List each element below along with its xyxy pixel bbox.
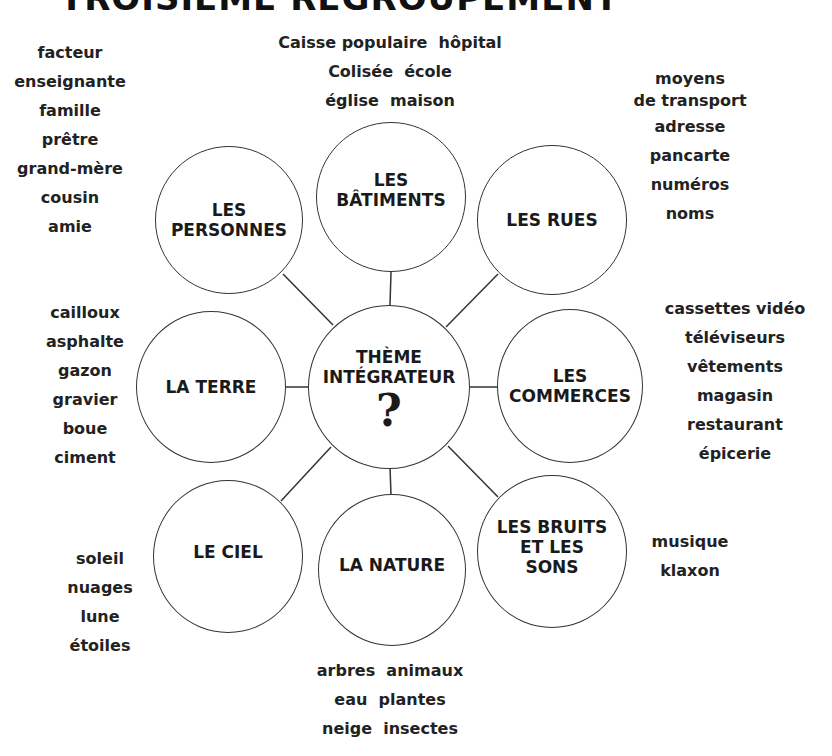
circle-ciel: LE CIEL: [153, 480, 303, 633]
circle-terre: LA TERRE: [136, 311, 286, 463]
list-item: vêtements: [640, 352, 830, 381]
list-item: étoiles: [40, 631, 160, 660]
list-nature: arbres animaux eau plantes neige insecte…: [290, 656, 490, 743]
list-item: lune: [40, 602, 160, 631]
list-item: amie: [0, 212, 140, 241]
label-bruits: LES BRUITS ET LES SONS: [497, 517, 608, 577]
list-item: gazon: [15, 356, 155, 385]
list-item: cassettes vidéo: [640, 294, 830, 323]
link-ciel: [281, 447, 331, 501]
label-line: PERSONNES: [171, 220, 287, 240]
label-line: LA TERRE: [166, 377, 257, 397]
label-line: LES: [509, 366, 631, 386]
list-batiments: Caisse populaire hôpital Colisée école é…: [250, 28, 530, 115]
list-item: arbres animaux: [290, 656, 490, 685]
list-item: soleil: [40, 544, 160, 573]
list-item: noms: [620, 199, 760, 228]
circle-bruits: LES BRUITS ET LES SONS: [477, 475, 627, 628]
label-nature: LA NATURE: [339, 555, 445, 575]
list-item: facteur: [0, 38, 140, 67]
label-line: SONS: [497, 557, 608, 577]
list-item: ciment: [15, 443, 155, 472]
list-item: prêtre: [0, 125, 140, 154]
list-item: asphalte: [15, 327, 155, 356]
label-ciel: LE CIEL: [193, 542, 263, 562]
list-personnes: facteur enseignante famille prêtre grand…: [0, 38, 140, 241]
list-item: moyens: [620, 68, 760, 90]
circle-rues: LES RUES: [477, 145, 627, 295]
label-terre: LA TERRE: [166, 377, 257, 397]
list-item: gravier: [15, 385, 155, 414]
link-nature: [390, 467, 391, 495]
list-item: cailloux: [15, 298, 155, 327]
list-item: enseignante: [0, 67, 140, 96]
label-line: LES RUES: [506, 210, 597, 230]
link-rues: [446, 274, 498, 327]
label-commerces: LES COMMERCES: [509, 366, 631, 406]
list-commerces: cassettes vidéo téléviseurs vêtements ma…: [640, 294, 830, 468]
list-terre: cailloux asphalte gazon gravier boue cim…: [15, 298, 155, 472]
list-item: magasin: [640, 381, 830, 410]
list-item: de transport: [620, 90, 760, 112]
label-line: LES BRUITS: [497, 517, 608, 537]
label-line: LA NATURE: [339, 555, 445, 575]
list-item: épicerie: [640, 439, 830, 468]
link-personnes: [283, 274, 333, 325]
label-line: BÂTIMENTS: [336, 190, 445, 210]
label-rues: LES RUES: [506, 210, 597, 230]
list-item: neige insectes: [290, 714, 490, 743]
list-ciel: soleil nuages lune étoiles: [40, 544, 160, 660]
list-item: adresse: [620, 112, 760, 141]
circle-personnes: LES PERSONNES: [155, 146, 303, 294]
label-line: THÈME: [323, 347, 456, 367]
label-batiments: LES BÂTIMENTS: [336, 170, 445, 210]
label-line: LE CIEL: [193, 542, 263, 562]
circle-center-theme: THÈME INTÉGRATEUR ?: [308, 305, 470, 469]
circle-commerces: LES COMMERCES: [497, 309, 643, 463]
label-line: COMMERCES: [509, 386, 631, 406]
list-rues: moyens de transport adresse pancarte num…: [620, 68, 760, 228]
list-item: musique: [635, 527, 745, 556]
list-item: famille: [0, 96, 140, 125]
list-item: Colisée école: [250, 57, 530, 86]
list-item: klaxon: [635, 556, 745, 585]
list-bruits: musique klaxon: [635, 527, 745, 585]
list-item: pancarte: [620, 141, 760, 170]
label-center: THÈME INTÉGRATEUR ?: [323, 347, 456, 433]
circle-nature: LA NATURE: [318, 494, 466, 646]
circle-batiments: LES BÂTIMENTS: [316, 122, 466, 272]
list-item: eau plantes: [290, 685, 490, 714]
list-item: nuages: [40, 573, 160, 602]
label-line: LES: [171, 200, 287, 220]
link-batiments: [390, 272, 391, 305]
label-line: INTÉGRATEUR: [323, 367, 456, 387]
list-item: église maison: [250, 86, 530, 115]
list-item: téléviseurs: [640, 323, 830, 352]
list-item: restaurant: [640, 410, 830, 439]
question-mark-icon: ?: [323, 389, 456, 433]
list-item: cousin: [0, 183, 140, 212]
list-item: Caisse populaire hôpital: [250, 28, 530, 57]
link-bruits: [448, 446, 498, 497]
label-line: LES: [336, 170, 445, 190]
list-item: grand-mère: [0, 154, 140, 183]
label-line: ET LES: [497, 537, 608, 557]
list-item: numéros: [620, 170, 760, 199]
label-personnes: LES PERSONNES: [171, 200, 287, 240]
list-item: boue: [15, 414, 155, 443]
